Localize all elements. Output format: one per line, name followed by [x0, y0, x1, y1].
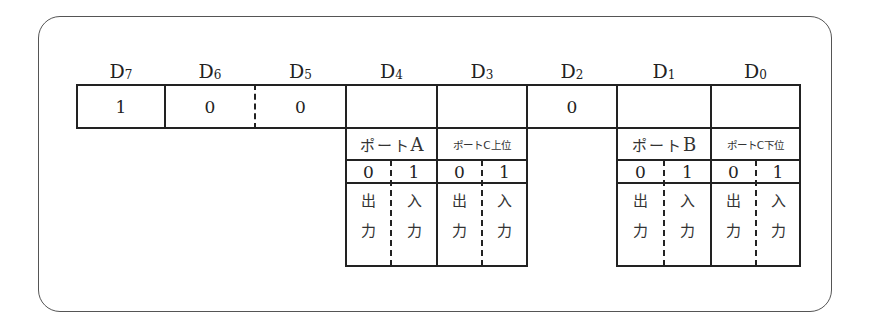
bit-value-d3 [437, 85, 527, 128]
bit-value-d0 [711, 85, 800, 128]
bit-value-d2: 0 [527, 85, 617, 128]
port-c-lower-option-0: 0 [711, 161, 756, 182]
bit-row-left-edge [76, 84, 78, 129]
port-label-c-upper: ポートC上位 [437, 129, 527, 159]
divider-d7-d6 [164, 84, 166, 129]
divider-d6-d5-dashed [254, 84, 256, 129]
bit-header-d4: D4 [346, 60, 437, 82]
port-c-lower-input-label: 入力 [756, 184, 800, 265]
port-c-upper-output-label: 出力 [437, 184, 482, 265]
port-c-upper-option-1: 1 [482, 161, 527, 182]
bit-value-d7: 1 [77, 85, 165, 128]
port-label-b: ポートB [617, 129, 711, 159]
port-c-upper-option-0: 0 [437, 161, 482, 182]
port-label-a: ポートA [346, 129, 437, 159]
bit-header-d1: D1 [617, 60, 711, 82]
port-b-option-1: 1 [664, 161, 711, 182]
port-a-option-1: 1 [391, 161, 437, 182]
port-a-input-label: 入力 [391, 184, 437, 265]
bit-value-d4 [346, 85, 437, 128]
port-c-upper-input-label: 入力 [482, 184, 527, 265]
port-b-option-0: 0 [617, 161, 664, 182]
bit-header-d2: D2 [527, 60, 617, 82]
bit-header-d7: D7 [77, 60, 165, 82]
port-b-output-label: 出力 [617, 184, 664, 265]
subtable-bottom-left [345, 265, 528, 267]
bit-header-d6: D6 [165, 60, 255, 82]
d2-gap-mask [529, 130, 615, 270]
bit-value-d5: 0 [255, 85, 346, 128]
bit-header-d3: D3 [437, 60, 527, 82]
bit-header-d0: D0 [711, 60, 800, 82]
port-c-lower-option-1: 1 [756, 161, 800, 182]
bit-row-top-line [77, 84, 801, 86]
port-label-c-lower: ポートC下位 [711, 129, 800, 159]
bit-header-d5: D5 [255, 60, 346, 82]
subtable-bottom-right [616, 265, 801, 267]
bit-value-d6: 0 [165, 85, 255, 128]
port-a-option-0: 0 [346, 161, 391, 182]
port-c-lower-output-label: 出力 [711, 184, 756, 265]
bit-value-d1 [617, 85, 711, 128]
port-a-output-label: 出力 [346, 184, 391, 265]
port-b-input-label: 入力 [664, 184, 711, 265]
